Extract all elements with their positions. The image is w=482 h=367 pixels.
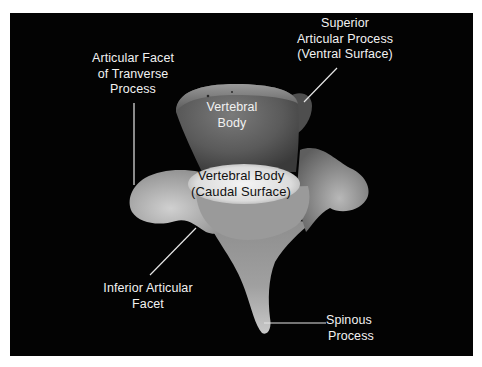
label-line: (Caudal Surface) bbox=[186, 184, 296, 200]
label-spinous-process: Spinous Process bbox=[326, 313, 382, 344]
leader-line-superior-process bbox=[304, 68, 337, 102]
label-line: (Ventral Surface) bbox=[290, 47, 400, 63]
leader-line-inferior-facet bbox=[150, 228, 196, 275]
label-caudal-surface: Vertebral Body (Caudal Surface) bbox=[186, 168, 296, 200]
label-line: Facet bbox=[96, 297, 200, 313]
label-line: of Tranverse bbox=[83, 67, 183, 83]
label-line: Spinous bbox=[326, 313, 382, 329]
label-transverse-facet: Articular Facet of Tranverse Process bbox=[83, 51, 183, 98]
label-line: Articular Facet bbox=[83, 51, 183, 67]
label-line: Superior bbox=[290, 16, 400, 32]
label-superior-process: Superior Articular Process (Ventral Surf… bbox=[290, 16, 400, 63]
label-line: Articular Process bbox=[290, 32, 400, 48]
label-vertebral-body: Vertebral Body bbox=[192, 100, 272, 131]
label-line: Vertebral bbox=[192, 100, 272, 116]
label-line: Vertebral Body bbox=[186, 168, 296, 184]
label-line: Process bbox=[326, 329, 382, 345]
label-line: Body bbox=[192, 116, 272, 132]
label-inferior-facet: Inferior Articular Facet bbox=[96, 281, 200, 312]
label-line: Process bbox=[83, 82, 183, 98]
label-line: Inferior Articular bbox=[96, 281, 200, 297]
